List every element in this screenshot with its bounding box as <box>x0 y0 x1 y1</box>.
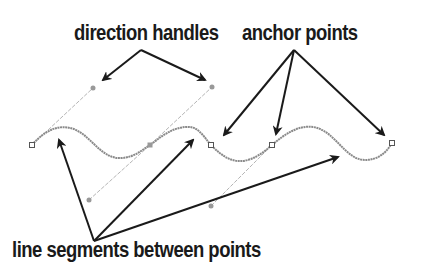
anchor-point <box>390 141 395 146</box>
line-segment-arrows <box>59 140 338 241</box>
arrow <box>141 50 205 80</box>
arrow <box>59 140 94 241</box>
handle-point <box>209 204 214 209</box>
label-anchor-points: anchor points <box>242 20 358 46</box>
handle-line-2 <box>89 145 150 200</box>
handle-line-1 <box>32 88 93 145</box>
arrow <box>224 50 294 135</box>
anchor-point <box>30 143 35 148</box>
handle-point <box>87 198 92 203</box>
arrow <box>276 50 294 134</box>
arrow <box>94 157 338 241</box>
direction-handle-arrows <box>103 50 205 80</box>
arrow <box>294 50 384 135</box>
arrow <box>103 50 141 80</box>
label-direction-handles: direction handles <box>74 20 218 46</box>
anchor-point <box>270 143 275 148</box>
selected-anchor-point <box>148 143 153 148</box>
label-line-segments: line segments between points <box>12 237 261 263</box>
anchor-point-arrows <box>224 50 384 135</box>
handle-point <box>91 86 96 91</box>
anchor-point <box>209 143 214 148</box>
handle-point <box>210 85 215 90</box>
